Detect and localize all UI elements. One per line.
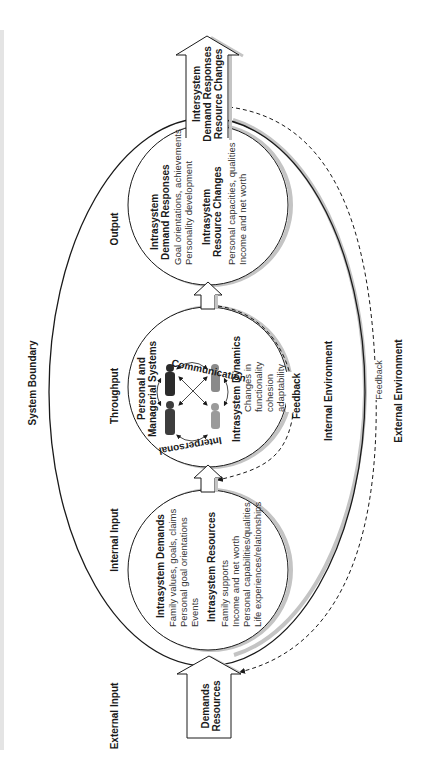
resource-changes-item: Personal capacities, qualities (226, 142, 237, 265)
resources-item: Family supports (219, 560, 230, 627)
external-input-demands: Demands (200, 683, 211, 728)
input-circle-text: Intrasystem Demands Family values, goals… (155, 502, 263, 627)
resources-item: Income and net worth (230, 536, 241, 627)
demand-responses-title-1: Intrasystem (149, 194, 160, 250)
demand-responses-item: Goal orientations, achievements (172, 129, 183, 265)
external-environment-label: External Environment (393, 339, 404, 443)
demand-responses-item: Personality development (183, 161, 194, 265)
output-arrow-line3: Resource Changes (213, 48, 224, 139)
intrasystem-demands-title: Intrasystem Demands (155, 514, 166, 618)
internal-input-label: Internal Input (109, 508, 120, 572)
person-icon (165, 401, 175, 435)
demand-responses-title-2: Demand Responses (160, 164, 171, 260)
outer-feedback-label: Feedback (374, 360, 384, 400)
person-icon (211, 403, 220, 429)
person-icon (165, 364, 175, 396)
input-to-throughput-arrow (194, 465, 222, 492)
demands-item: Events (189, 598, 200, 627)
output-arrow-line2: Demand Responses (202, 46, 213, 142)
personal-managerial-title-2: Managerial Systems (147, 340, 158, 437)
demands-item: Personal goal orientations (178, 517, 189, 627)
resource-changes-title-2: Resource Changes (212, 166, 223, 257)
dynamics-item: Changes in (242, 364, 253, 412)
external-input-label: External Input (109, 682, 120, 749)
output-arrow-line1: Intersystem (191, 66, 202, 122)
external-input-resources: Resources (211, 680, 222, 732)
family-system-diagram: System Boundary External Input Internal … (0, 0, 423, 766)
dynamics-item: cohesion (264, 374, 275, 412)
demands-item: Family values, goals, claims (167, 508, 178, 627)
resource-changes-title-1: Intrasystem (201, 189, 212, 245)
dynamics-item: functionality (253, 362, 264, 412)
output-label: Output (109, 212, 120, 245)
intrasystem-resources-title: Intrasystem Resources (206, 512, 217, 622)
dynamics-item: adaptability (275, 364, 286, 412)
system-boundary-label: System Boundary (27, 340, 38, 425)
resources-item: Personal capabilities/qualities (241, 502, 252, 627)
personal-managerial-title-1: Personal and (136, 357, 147, 420)
intrasystem-dynamics-title: Intrasystem Dynamics (231, 335, 242, 442)
throughput-label: Throughput (109, 367, 120, 424)
resource-changes-item: Income and net worth (237, 174, 248, 265)
inner-feedback-label: Feedback (291, 372, 302, 419)
internal-environment-label: Internal Environment (323, 340, 334, 441)
resources-item: Life experiences/relationships (252, 502, 263, 627)
